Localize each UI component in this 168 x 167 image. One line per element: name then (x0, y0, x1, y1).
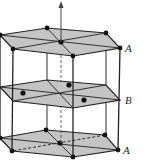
bottom-plane-label: A (122, 144, 130, 156)
top-plane-label: A (124, 42, 132, 54)
hcp-diagram-svg: A B A (0, 0, 168, 167)
middle-plane-label: B (125, 94, 132, 106)
bottom-plane-a (0, 128, 120, 160)
hcp-unit-cell-diagram: A B A (0, 0, 168, 167)
middle-plane-b (0, 80, 120, 108)
